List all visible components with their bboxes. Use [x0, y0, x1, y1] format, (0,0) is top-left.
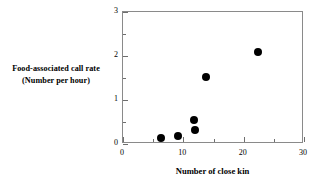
- y-tick-label: 0: [100, 139, 118, 147]
- y-tick-label: 3: [100, 7, 118, 15]
- x-tick-minor: [153, 139, 154, 142]
- x-tick-label: 30: [292, 149, 313, 157]
- y-tick-major: [123, 56, 128, 57]
- data-point: [254, 48, 262, 56]
- scatter-plot-figure: Food-associated call rate (Number per ho…: [0, 0, 313, 187]
- y-axis-title-line-2: (Number per hour): [0, 75, 112, 87]
- plot-frame: [122, 11, 303, 143]
- x-tick-major: [123, 137, 124, 142]
- data-point: [202, 73, 210, 81]
- x-tick-major: [304, 137, 305, 142]
- data-point: [190, 116, 198, 124]
- x-axis-title: Number of close kin: [122, 166, 303, 176]
- x-tick-label: 0: [111, 149, 133, 157]
- data-point: [157, 134, 165, 142]
- y-tick-major: [123, 12, 128, 13]
- y-axis-title: Food-associated call rate (Number per ho…: [0, 63, 112, 86]
- y-tick-label: 1: [100, 95, 118, 103]
- y-tick-major: [123, 144, 128, 145]
- y-tick-minor: [123, 34, 126, 35]
- y-axis-title-line-1: Food-associated call rate: [0, 63, 112, 75]
- y-tick-minor: [123, 78, 126, 79]
- x-tick-label: 20: [232, 149, 254, 157]
- x-tick-minor: [274, 139, 275, 142]
- data-point: [191, 126, 199, 134]
- x-tick-major: [183, 137, 184, 142]
- y-tick-label: 2: [100, 51, 118, 59]
- y-tick-minor: [123, 122, 126, 123]
- data-point: [174, 132, 182, 140]
- y-tick-major: [123, 100, 128, 101]
- x-tick-minor: [214, 139, 215, 142]
- x-tick-label: 10: [171, 149, 193, 157]
- x-tick-major: [244, 137, 245, 142]
- plot-area: [123, 12, 302, 142]
